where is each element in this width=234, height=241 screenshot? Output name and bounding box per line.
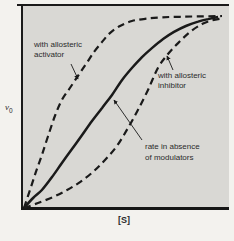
x-axis-line xyxy=(21,207,229,210)
label-no-modulators-line2: of modulators xyxy=(145,152,200,163)
label-allosteric-activator-line2: activator xyxy=(34,50,82,60)
label-allosteric-activator: with allosteric activator xyxy=(34,40,82,60)
label-no-modulators: rate in absence of modulators xyxy=(145,141,200,163)
x-axis-label: [S] xyxy=(110,215,138,225)
y-axis-line xyxy=(21,4,23,210)
y-axis-label-subscript: 0 xyxy=(9,107,13,114)
figure-canvas: with allosteric activator with allosteri… xyxy=(0,0,234,241)
plot-area-background xyxy=(23,6,229,207)
label-allosteric-inhibitor-line2: inhibitor xyxy=(158,81,206,91)
top-border-rule xyxy=(17,4,229,6)
label-allosteric-inhibitor: with allosteric inhibitor xyxy=(158,71,206,91)
label-allosteric-inhibitor-line1: with allosteric xyxy=(158,71,206,81)
label-allosteric-activator-line1: with allosteric xyxy=(34,40,82,50)
label-no-modulators-line1: rate in absence xyxy=(145,141,200,152)
y-axis-label: v0 xyxy=(5,102,13,114)
